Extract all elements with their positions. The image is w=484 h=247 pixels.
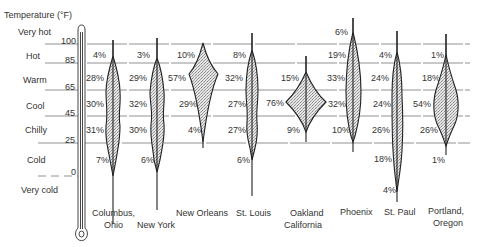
pct-st-louis-cold: 6% (237, 155, 250, 165)
axis-title: Temperature (°F) (4, 10, 72, 20)
pct-st-paul-cold: 18% (374, 154, 392, 164)
city-st-louis: St. Louis (236, 208, 272, 218)
pct-new-orleans-chilly: 4% (188, 125, 201, 135)
band-very-hot: Very hot (18, 27, 52, 37)
city-portland-line1: Portland, (428, 206, 464, 216)
band-hot: Hot (26, 51, 41, 61)
city-portland-line2: Oregon (433, 218, 463, 228)
pct-portland-chilly: 26% (420, 125, 438, 135)
pct-phoenix-hot: 19% (328, 50, 346, 60)
pct-st-paul-warm: 24% (371, 73, 389, 83)
city-oakland-line1: Oakland (290, 208, 324, 218)
band-labels: Very hot Hot Warm Cool Chilly Cold Very … (18, 27, 58, 195)
band-chilly: Chilly (25, 125, 48, 135)
pct-phoenix-very-hot: 6% (335, 27, 348, 37)
pct-phoenix-cool: 32% (328, 99, 346, 109)
pct-new-york-chilly: 30% (129, 125, 147, 135)
pct-st-paul-chilly: 26% (372, 125, 390, 135)
pct-new-orleans-warm: 57% (168, 73, 186, 83)
pct-new-york-cool: 32% (129, 99, 147, 109)
band-warm: Warm (23, 75, 47, 85)
tick-100: 100 (61, 36, 76, 46)
pct-new-york-cold: 6% (141, 155, 154, 165)
pct-columbus-hot: 4% (93, 50, 106, 60)
pct-st-paul-cool: 24% (373, 99, 391, 109)
city-columbus-line1: Columbus, (92, 208, 135, 218)
pct-portland-warm: 18% (422, 73, 440, 83)
pct-st-louis-cool: 27% (228, 99, 246, 109)
city-new-york: New York (137, 220, 176, 230)
temperature-violin-chart: Temperature (°F) Very hot Hot Warm Cool … (0, 0, 484, 247)
pct-new-orleans-cool: 29% (179, 99, 197, 109)
pct-st-louis-warm: 32% (225, 73, 243, 83)
pct-columbus-cold: 7% (96, 155, 109, 165)
band-very-cold: Very cold (21, 185, 58, 195)
pct-new-york-hot: 3% (137, 50, 150, 60)
city-phoenix: Phoenix (340, 207, 373, 217)
pct-portland-hot: 1% (431, 50, 444, 60)
pct-portland-cold: 1% (432, 155, 445, 165)
tick-labels: 100 85 65 45 25 0 (61, 36, 76, 177)
pct-new-york-warm: 29% (129, 73, 147, 83)
pct-new-orleans-hot: 10% (177, 50, 195, 60)
pct-phoenix-chilly: 10% (332, 125, 350, 135)
pct-oakland-cool: 76% (266, 98, 284, 108)
violins (106, 18, 458, 224)
pct-oakland-chilly: 9% (287, 125, 300, 135)
city-oakland-line2: California (284, 220, 322, 230)
pct-st-louis-hot: 8% (233, 50, 246, 60)
pct-oakland-warm: 15% (281, 73, 299, 83)
pct-columbus-warm: 28% (86, 73, 104, 83)
pct-st-paul-very-cold: 4% (383, 185, 396, 195)
pct-columbus-chilly: 31% (86, 125, 104, 135)
pct-columbus-cool: 30% (86, 99, 104, 109)
percent-labels: 4% 28% 30% 31% 7% 3% 29% 32% 30% 6% 10% … (86, 27, 445, 195)
tick-0: 0 (71, 167, 76, 177)
city-columbus-line2: Ohio (104, 220, 123, 230)
pct-st-louis-chilly: 27% (228, 125, 246, 135)
pct-st-paul-hot: 4% (379, 50, 392, 60)
pct-portland-cool: 54% (413, 99, 431, 109)
tick-85: 85 (65, 55, 75, 65)
city-labels: Columbus, Ohio New York New Orleans St. … (92, 206, 464, 230)
tick-25: 25 (65, 135, 75, 145)
band-cold: Cold (27, 155, 46, 165)
tick-65: 65 (65, 82, 75, 92)
city-new-orleans: New Orleans (176, 208, 229, 218)
tick-45: 45 (65, 108, 75, 118)
city-st-paul: St. Paul (384, 207, 416, 217)
band-cool: Cool (26, 101, 45, 111)
pct-phoenix-warm: 33% (327, 73, 345, 83)
